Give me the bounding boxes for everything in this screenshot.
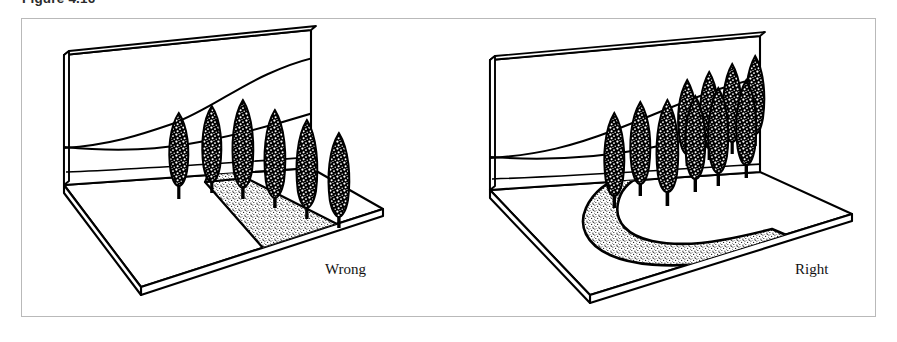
- figure-frame-border: [21, 18, 876, 317]
- scene-label-wrong: Wrong: [325, 261, 366, 278]
- scene-label-right: Right: [795, 261, 828, 278]
- figure-caption: Figure 4.16: [22, 0, 95, 6]
